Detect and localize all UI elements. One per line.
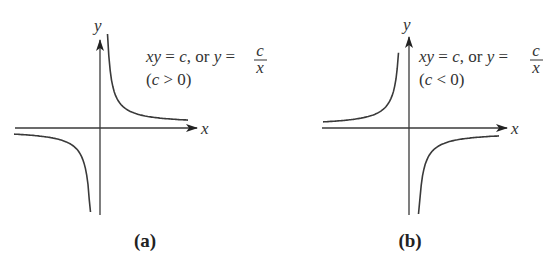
caption-a: (a) [134,230,156,252]
equation-b: xy = c, or y = [418,47,508,66]
fraction-denominator-a: x [255,58,264,77]
x-axis-label-b: x [510,119,519,138]
panel-b: x y xy = c, or y = c x (c < 0) (b) [322,15,543,252]
y-axis-label-a: y [92,16,102,35]
y-axis-label-b: y [401,15,411,34]
condition-b: (c < 0) [419,70,464,89]
x-axis-label-a: x [200,119,209,138]
equation-a: xy = c, or y = [145,47,235,66]
hyperbola-figure: x y xy = c, or y = c x (c > 0) (a) x y x… [0,0,550,263]
hyperbola-branch-lower-left-a [14,134,91,212]
caption-b: (b) [398,230,421,252]
panel-a: x y xy = c, or y = c x (c > 0) (a) [14,16,267,252]
fraction-denominator-b: x [531,58,540,77]
condition-a: (c > 0) [146,70,191,89]
hyperbola-branch-lower-right-b [419,136,500,214]
hyperbola-branch-upper-left-b [323,53,399,122]
